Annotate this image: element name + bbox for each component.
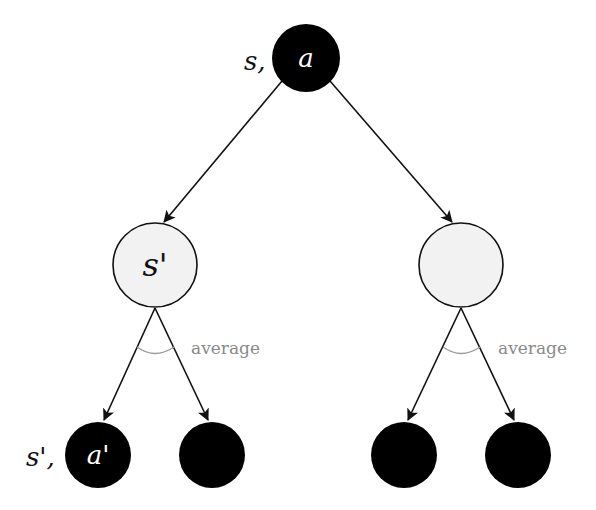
leaf-node-2 bbox=[179, 422, 245, 488]
edge-right-state-to-leaf-4 bbox=[461, 308, 514, 420]
right-state-node bbox=[419, 223, 503, 307]
leaf-1-state-label: s', bbox=[26, 442, 55, 472]
root-action-label: a bbox=[298, 43, 314, 73]
edge-left-state-to-leaf-1 bbox=[104, 308, 155, 420]
edge-right-state-to-leaf-3 bbox=[408, 308, 461, 420]
left-state-node: s' bbox=[113, 223, 197, 307]
backup-diagram: a s, s' average average a' s', bbox=[0, 0, 596, 510]
edge-left-state-to-leaf-2 bbox=[155, 308, 208, 420]
leaf-node-4 bbox=[485, 422, 551, 488]
edge-root-to-left-state bbox=[164, 81, 282, 222]
leaf-1-action-label: a' bbox=[87, 440, 110, 470]
leaf-node-3 bbox=[371, 422, 437, 488]
edge-root-to-right-state bbox=[330, 81, 452, 222]
left-state-label: s' bbox=[142, 246, 167, 284]
average-arc-left bbox=[137, 347, 174, 354]
average-label-right: average bbox=[498, 338, 567, 358]
average-arc-right bbox=[443, 347, 480, 354]
root-state-label: s, bbox=[244, 46, 266, 76]
root-node: a bbox=[272, 24, 340, 92]
average-label-left: average bbox=[191, 338, 260, 358]
leaf-node-1: a' bbox=[65, 422, 131, 488]
